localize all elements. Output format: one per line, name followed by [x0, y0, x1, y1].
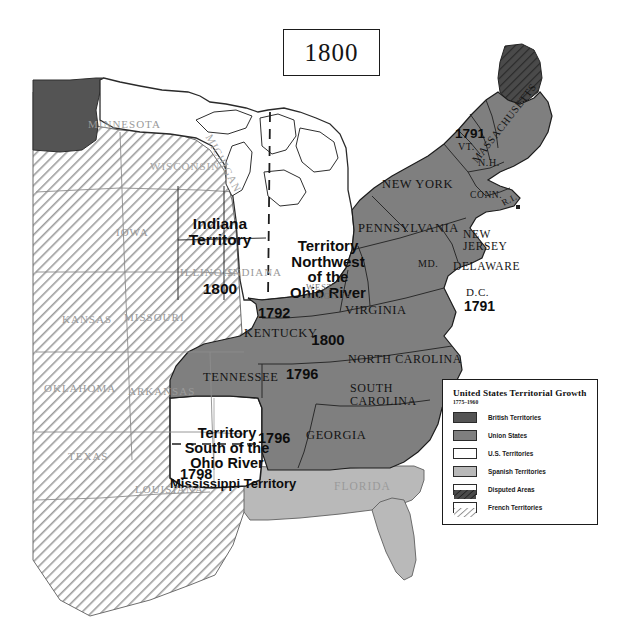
legend-subtitle: 1775–1960 [453, 399, 589, 405]
map-legend: United States Territorial Growth 1775–19… [442, 379, 598, 525]
legend-item-us-territories: U.S. Territories [453, 445, 589, 462]
region-british-territories [33, 78, 106, 152]
legend-swatch-disputed-areas [453, 484, 477, 495]
legend-item-spanish-territories: Spanish Territories [453, 463, 589, 480]
legend-label-us-territories: U.S. Territories [488, 450, 533, 457]
legend-title: United States Territorial Growth [453, 388, 589, 398]
legend-item-french-territories: French Territories [453, 499, 589, 516]
legend-swatch-spanish-territories [453, 466, 477, 477]
legend-label-disputed-areas: Disputed Areas [488, 486, 535, 493]
legend-label-spanish-territories: Spanish Territories [488, 468, 546, 475]
legend-swatch-union-states [453, 430, 477, 441]
map-graphic [0, 0, 620, 637]
rhode-island-marker [516, 205, 520, 209]
legend-item-british-territories: British Territories [453, 409, 589, 426]
region-disputed-area [498, 44, 542, 104]
year-title-box: 1800 [283, 29, 380, 76]
legend-item-union-states: Union States [453, 427, 589, 444]
french-hatch-icon [454, 508, 476, 517]
region-spanish-territories [244, 466, 424, 580]
legend-swatch-british-territories [453, 412, 477, 423]
legend-label-french-territories: French Territories [488, 504, 542, 511]
historical-map: 1800 Indiana Territory 1800 Territory No… [0, 0, 620, 637]
disputed-hatch-icon [454, 490, 476, 499]
legend-label-british-territories: British Territories [488, 414, 541, 421]
year-title: 1800 [305, 39, 359, 67]
legend-swatch-french-territories [453, 502, 477, 513]
legend-item-disputed-areas: Disputed Areas [453, 481, 589, 498]
legend-label-union-states: Union States [488, 432, 527, 439]
legend-swatch-us-territories [453, 448, 477, 459]
